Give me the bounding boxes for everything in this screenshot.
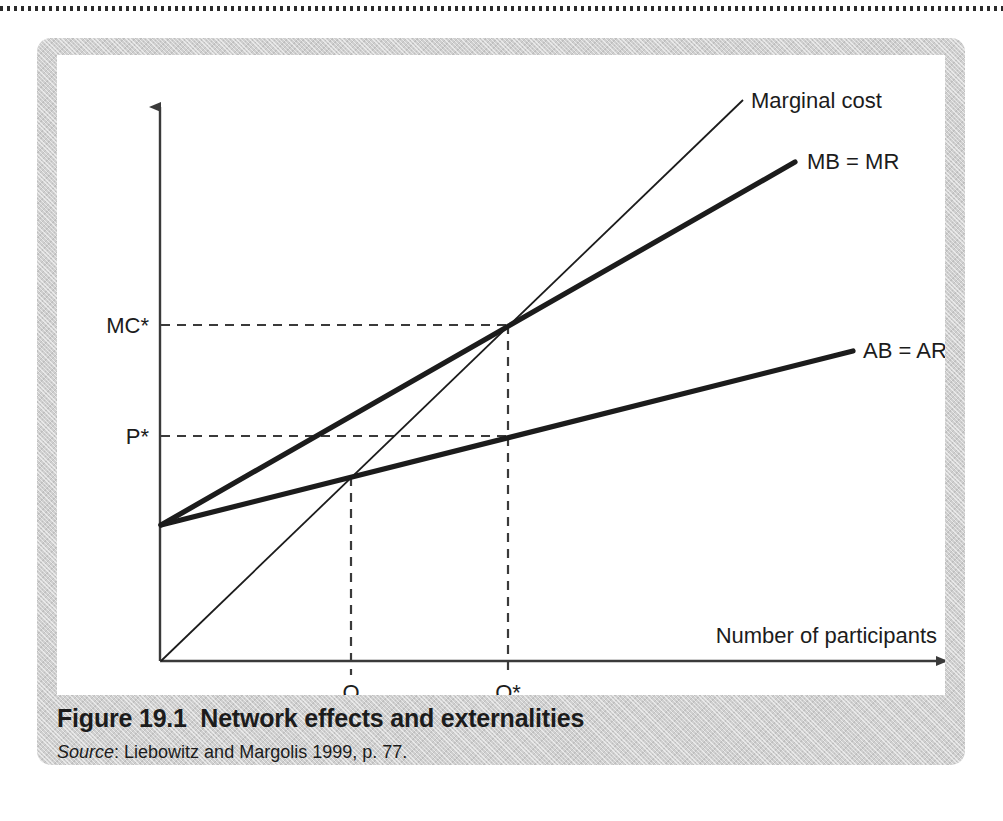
- series-label-ab-ar: AB = AR: [863, 338, 945, 363]
- source-separator: :: [114, 742, 124, 762]
- figure-panel: Marginal cost MB = MR AB = AR MC* P* Q Q…: [37, 38, 965, 765]
- network-effects-chart: Marginal cost MB = MR AB = AR MC* P* Q Q…: [57, 55, 945, 695]
- series-label-mb-mr: MB = MR: [807, 149, 899, 174]
- series-label-marginal-cost: Marginal cost: [751, 88, 882, 113]
- series-line-marginal-cost: [161, 100, 743, 661]
- figure-title: Figure 19.1 Network effects and external…: [57, 704, 945, 733]
- y-tick-label-mc-star: MC*: [106, 313, 149, 338]
- figure-source: Source: Liebowitz and Margolis 1999, p. …: [57, 742, 945, 763]
- source-text: Liebowitz and Margolis 1999, p. 77.: [124, 742, 407, 762]
- x-tick-label-q: Q: [342, 680, 359, 695]
- x-axis-title: Number of participants: [716, 623, 937, 648]
- source-label: Source: [57, 742, 114, 762]
- axes-group: [160, 107, 945, 661]
- caption-block: Figure 19.1 Network effects and external…: [57, 704, 945, 763]
- series-line-mb-mr: [161, 162, 795, 525]
- x-tick-label-q-star: Q*: [495, 680, 521, 695]
- plot-card: Marginal cost MB = MR AB = AR MC* P* Q Q…: [57, 55, 945, 695]
- y-tick-label-p-star: P*: [126, 424, 150, 449]
- guide-lines-group: [161, 325, 509, 675]
- top-dotted-rule: [0, 6, 1003, 11]
